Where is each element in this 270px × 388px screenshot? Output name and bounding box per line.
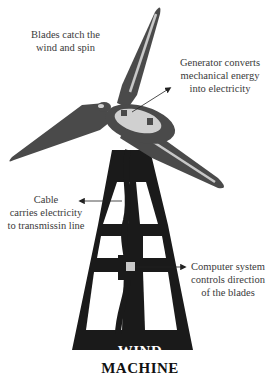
cable-label-line2: carries electricity [2, 206, 90, 219]
computer-label-line2: controls direction [186, 273, 270, 286]
cable-label-line1: Cable [2, 193, 90, 206]
computer-box [118, 255, 143, 280]
title-wind: WIND [105, 343, 175, 360]
blades-label-line1: Blades catch the [18, 28, 113, 41]
blades-label-line2: wind and spin [18, 41, 113, 54]
computer-label: Computer system controls direction of th… [186, 260, 270, 299]
title-machine: MACHINE [80, 360, 200, 377]
computer-label-line1: Computer system [186, 260, 270, 273]
blades-label: Blades catch the wind and spin [18, 28, 113, 54]
cable-label: Cable carries electricity to transmissin… [2, 193, 90, 232]
computer-label-line3: of the blades [186, 286, 270, 299]
generator-label-line2: mechanical energy [170, 69, 270, 82]
cable-label-line3: to transmissin line [2, 219, 90, 232]
generator-label-line1: Generator converts [170, 56, 270, 69]
tower [72, 150, 193, 350]
generator-label: Generator converts mechanical energy int… [170, 56, 270, 95]
generator-label-line3: into electricity [170, 82, 270, 95]
